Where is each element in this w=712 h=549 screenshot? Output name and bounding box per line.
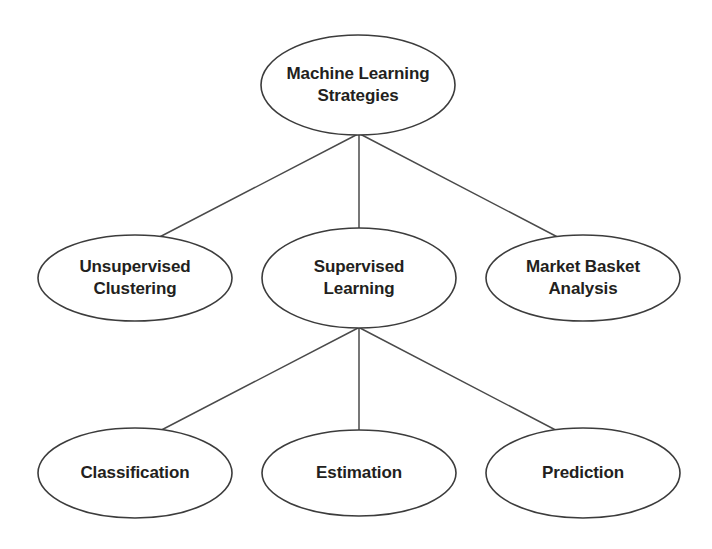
edge-supervised-to-classification (148, 328, 358, 437)
node-supervised-learning[interactable] (262, 228, 456, 328)
diagram-canvas: Machine Learning Strategies Unsupervised… (0, 0, 712, 549)
node-machine-learning-strategies[interactable] (261, 35, 455, 135)
node-estimation[interactable] (262, 430, 456, 516)
edge-supervised-to-prediction (360, 328, 569, 437)
node-classification[interactable] (38, 428, 232, 518)
node-market-basket-analysis[interactable] (486, 235, 680, 321)
edge-root-to-unsupervised-clustering (148, 134, 358, 243)
diagram-svg (0, 0, 712, 549)
node-prediction[interactable] (486, 428, 680, 518)
node-unsupervised-clustering[interactable] (38, 235, 232, 321)
edge-root-to-market-basket-analysis (360, 134, 569, 243)
